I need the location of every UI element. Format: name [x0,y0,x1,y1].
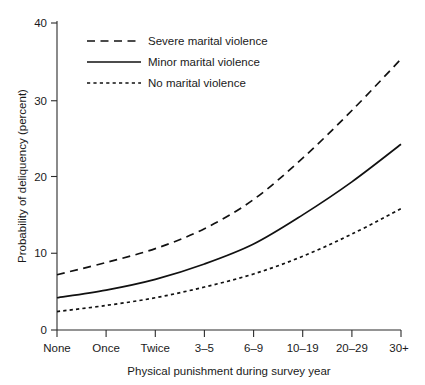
series-line-minor-marital-violence [57,144,401,297]
x-axis-title: Physical punishment during survey year [127,365,330,377]
legend: Severe marital violence Minor marital vi… [87,35,268,89]
legend-item-none: No marital violence [87,77,246,89]
legend-label-severe: Severe marital violence [148,35,268,47]
series-line-no-marital-violence [57,209,401,312]
y-tick-label-0: 0 [41,324,47,336]
x-tick-label-once: Once [92,342,120,354]
x-tick-label-20-29: 20–29 [336,342,368,354]
legend-label-minor: Minor marital violence [148,56,260,68]
legend-label-none: No marital violence [148,77,246,89]
y-axis-title: Probability of deliquency (percent) [16,89,28,263]
y-tick-label-30: 30 [34,95,47,107]
x-tick-label-none: None [43,342,71,354]
y-tick-label-40: 40 [34,17,47,29]
x-tick-label-10-19: 10–19 [287,342,319,354]
x-tick-label-3-5: 3–5 [195,342,214,354]
legend-item-minor: Minor marital violence [87,56,260,68]
x-tick-label-30-plus: 30+ [389,342,409,354]
y-tick-label-10: 10 [34,247,47,259]
line-chart: 40 30 20 10 0 None Once Twice 3–5 6–9 10… [0,0,425,385]
chart-container: 40 30 20 10 0 None Once Twice 3–5 6–9 10… [0,0,425,385]
series-line-severe-marital-violence [57,59,401,275]
x-tick-label-twice: Twice [141,342,170,354]
legend-item-severe: Severe marital violence [87,35,268,47]
x-tick-label-6-9: 6–9 [244,342,263,354]
y-tick-label-20: 20 [34,171,47,183]
